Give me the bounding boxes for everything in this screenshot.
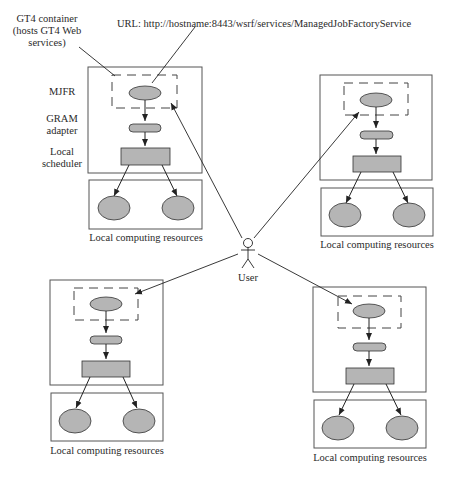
- local-scheduler-label-line-1: Local: [38, 146, 86, 158]
- user-to-bottom-right-arrow: [258, 254, 352, 304]
- user-to-bottom-left-arrow: [135, 254, 238, 294]
- site-bottom-right: [313, 287, 426, 448]
- site-top-left: [88, 67, 202, 229]
- gram-adapter-label: GRAM adapter: [40, 113, 84, 137]
- resource-node: [393, 203, 425, 227]
- resource-node: [386, 416, 418, 440]
- site-bottom-left: [50, 280, 163, 441]
- gram-adapter-label-line-2: adapter: [40, 125, 84, 137]
- url-label: URL: http://hostname:8443/wsrf/services/…: [117, 18, 411, 30]
- local-scheduler-node: [82, 361, 130, 377]
- resource-node: [123, 409, 155, 433]
- mjfr-label: MJFR: [49, 86, 75, 98]
- local-scheduler-label: Local scheduler: [38, 146, 86, 170]
- site-top-right: [320, 75, 433, 236]
- gram-adapter-node: [129, 124, 161, 132]
- container-note: GT4 container (hosts GT4 Web services): [12, 13, 82, 49]
- gram-adapter-node: [90, 336, 122, 344]
- resources-label-bottom-right: Local computing resources: [309, 452, 431, 464]
- resources-label-top-right: Local computing resources: [316, 239, 438, 251]
- mjfr-node: [353, 304, 385, 318]
- local-scheduler-node: [353, 156, 401, 172]
- resource-node: [322, 416, 354, 440]
- local-scheduler-node: [121, 148, 170, 165]
- resources-label-bottom-left: Local computing resources: [46, 445, 168, 457]
- container-note-line-3: services): [12, 37, 82, 49]
- container-note-line-1: GT4 container: [12, 13, 82, 25]
- container-note-leader: [79, 47, 115, 76]
- user-icon: [241, 239, 255, 269]
- resources-label-top-left: Local computing resources: [85, 232, 207, 244]
- resource-node: [329, 203, 361, 227]
- gram-adapter-node: [353, 343, 386, 351]
- gram-adapter-label-line-1: GRAM: [40, 113, 84, 125]
- mjfr-node: [90, 297, 122, 311]
- resource-node: [98, 196, 130, 220]
- resource-node: [59, 409, 91, 433]
- local-scheduler-node: [346, 368, 394, 384]
- resource-node: [162, 196, 194, 220]
- local-scheduler-label-line-2: scheduler: [38, 158, 86, 170]
- mjfr-node: [129, 86, 161, 100]
- mjfr-node: [360, 93, 392, 107]
- container-note-line-2: (hosts GT4 Web: [12, 25, 82, 37]
- user-label: User: [233, 272, 263, 284]
- gram-adapter-node: [360, 131, 393, 139]
